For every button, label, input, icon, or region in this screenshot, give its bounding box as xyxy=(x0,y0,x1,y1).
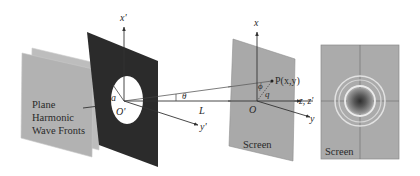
pattern-screen xyxy=(321,45,399,159)
axis-y-prime-label: y' xyxy=(199,121,207,132)
point-p-label: P(x,y) xyxy=(275,75,300,87)
theta-label: θ xyxy=(182,91,187,101)
wave-fronts-label-line1: Plane xyxy=(32,99,56,110)
radial-q-label: q xyxy=(265,89,270,99)
wave-fronts-label-line2: Harmonic xyxy=(32,112,74,123)
axis-z-label: z, z' xyxy=(298,96,314,106)
pattern-screen-label: Screen xyxy=(325,146,354,157)
axis-x-prime-label: x' xyxy=(119,12,127,23)
azimuth-phi-label: ϕ xyxy=(258,81,263,91)
axis-x-label: x xyxy=(253,17,259,28)
diffraction-diagram: Plane Harmonic Wave Fronts x' a O' y' θ … xyxy=(0,0,420,176)
screen-origin-label: O xyxy=(249,104,256,115)
airy-disk xyxy=(347,88,373,114)
aperture-radius-label: a xyxy=(111,92,116,103)
axis-y-label: y xyxy=(309,113,315,124)
distance-l-label: L xyxy=(198,105,205,116)
wave-fronts-label-line3: Wave Fronts xyxy=(32,125,85,136)
aperture-origin-label: O' xyxy=(116,106,126,117)
oblique-screen-label: Screen xyxy=(243,139,272,150)
point-p-marker xyxy=(271,80,274,83)
